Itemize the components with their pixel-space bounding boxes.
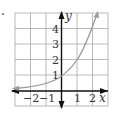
y-tick-label: 4 xyxy=(52,23,59,36)
y-tick-label: 2 xyxy=(52,54,59,67)
y-axis-label: y xyxy=(64,9,72,23)
y-axis xyxy=(59,11,65,109)
x-tick-label: −2 xyxy=(23,92,39,105)
y-tick-label: 3 xyxy=(52,38,59,51)
item-bullet xyxy=(2,13,4,15)
x-tick-label: 1 xyxy=(74,92,81,105)
y-axis-up-arrow-icon xyxy=(59,11,65,19)
curve-top-arrow-icon xyxy=(94,11,100,18)
x-axis-label: x xyxy=(99,91,106,105)
exponential-graph: −2 −1 1 2 1 2 3 4 x y xyxy=(0,0,115,114)
x-tick-label: 2 xyxy=(89,92,96,105)
y-tick-label: 1 xyxy=(52,69,59,82)
y-axis-down-arrow-icon xyxy=(59,101,65,109)
x-tick-label: −1 xyxy=(39,92,55,105)
